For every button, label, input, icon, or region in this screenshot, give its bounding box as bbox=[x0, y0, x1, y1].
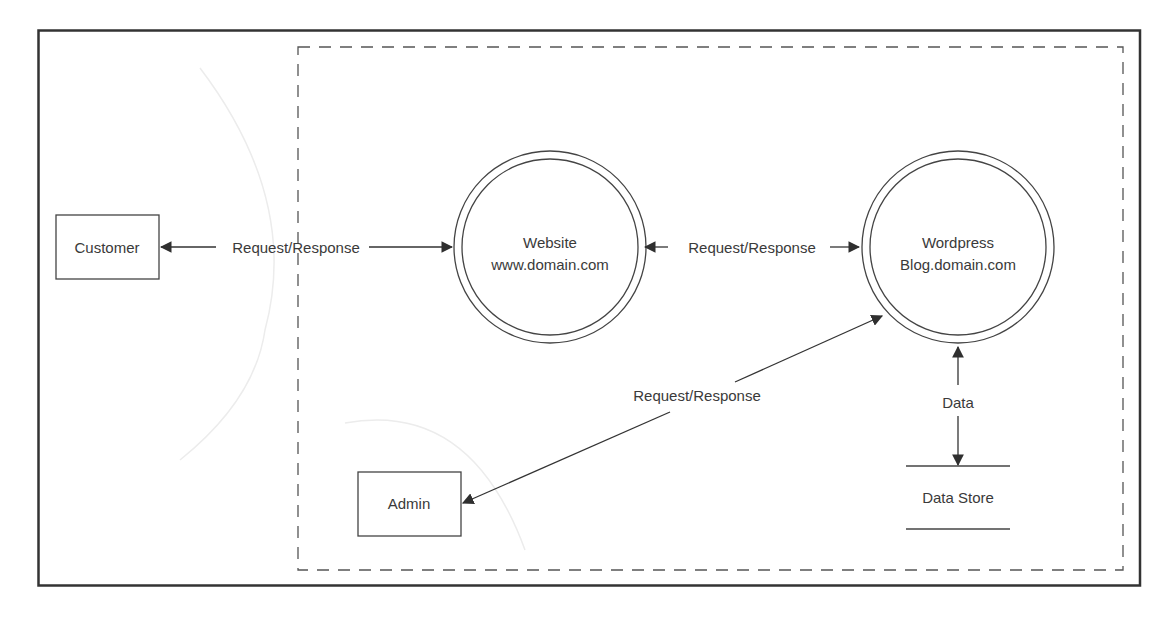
flow-admin-wordpress[interactable]: Request/Response bbox=[463, 316, 882, 503]
flow-label-customer-website: Request/Response bbox=[232, 239, 360, 256]
website-title: Website bbox=[523, 234, 577, 251]
customer-label: Customer bbox=[74, 239, 139, 256]
flow-label-data: Data bbox=[942, 394, 974, 411]
website-process[interactable]: Website www.domain.com bbox=[454, 151, 646, 343]
flow-wordpress-datastore[interactable]: Data bbox=[942, 347, 974, 465]
customer-entity[interactable]: Customer bbox=[56, 215, 159, 279]
admin-label: Admin bbox=[388, 495, 431, 512]
diagram-canvas: Customer Request/Response Website www.do… bbox=[0, 0, 1168, 621]
wordpress-url: Blog.domain.com bbox=[900, 256, 1016, 273]
flow-label-website-wordpress: Request/Response bbox=[688, 239, 816, 256]
website-url: www.domain.com bbox=[490, 256, 609, 273]
wordpress-title: Wordpress bbox=[922, 234, 994, 251]
flow-customer-website[interactable]: Request/Response bbox=[161, 239, 452, 256]
wordpress-process[interactable]: Wordpress Blog.domain.com bbox=[862, 151, 1054, 343]
admin-entity[interactable]: Admin bbox=[358, 472, 461, 536]
flow-label-admin-wordpress: Request/Response bbox=[633, 387, 761, 404]
ghost-arc-left bbox=[180, 68, 274, 460]
flow-website-wordpress[interactable]: Request/Response bbox=[645, 239, 859, 256]
data-store-label: Data Store bbox=[922, 489, 994, 506]
data-store[interactable]: Data Store bbox=[906, 466, 1010, 529]
